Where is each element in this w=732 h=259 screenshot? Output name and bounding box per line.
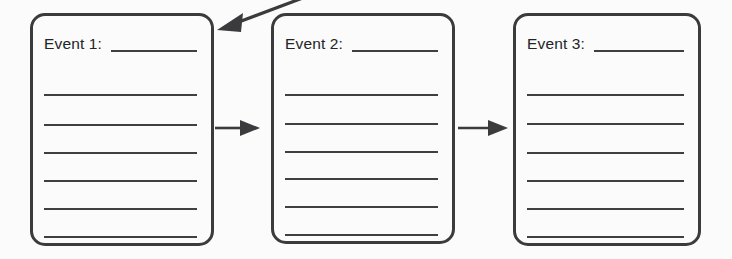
event-1-label: Event 1: [44,36,102,55]
event-3-line-4[interactable] [527,180,684,182]
event-2-label: Event 2: [285,36,343,55]
arrow-event2-to-event3-icon [458,120,508,136]
event-3-label: Event 3: [527,36,585,55]
event-1-line-3[interactable] [44,152,197,154]
event-box-1-label-row: Event 1: [44,26,197,54]
event-3-line-2[interactable] [527,123,684,125]
event-3-line-3[interactable] [527,152,684,154]
event-1-line-4[interactable] [44,180,197,182]
event-2-line-2[interactable] [285,123,438,125]
event-box-3-lines: Event 3: [527,26,684,235]
event-2-line-1[interactable] [285,94,438,96]
sequence-of-events-worksheet: Event 1: Event 2: [0,0,732,259]
event-2-line-5[interactable] [285,206,438,208]
event-2-title-blank[interactable] [352,50,438,52]
event-box-3-label-row: Event 3: [527,26,684,54]
event-box-2-label-row: Event 2: [285,26,438,54]
event-1-line-2[interactable] [44,124,197,126]
event-1-title-blank[interactable] [111,50,197,52]
event-box-1[interactable]: Event 1: [30,13,214,246]
event-2-line-4[interactable] [285,178,438,180]
event-box-2-lines: Event 2: [285,26,438,233]
arrow-event1-to-event2-icon [215,120,260,136]
event-3-title-blank[interactable] [594,50,684,52]
event-1-line-6[interactable] [44,236,197,238]
event-box-3[interactable]: Event 3: [513,13,701,246]
event-1-line-1[interactable] [44,94,197,96]
event-2-line-3[interactable] [285,151,438,153]
event-box-1-lines: Event 1: [44,26,197,235]
event-2-line-6[interactable] [285,234,438,236]
event-3-line-5[interactable] [527,208,684,210]
event-1-line-5[interactable] [44,208,197,210]
event-box-2[interactable]: Event 2: [271,13,455,244]
event-3-line-6[interactable] [527,236,684,238]
event-3-line-1[interactable] [527,94,684,96]
